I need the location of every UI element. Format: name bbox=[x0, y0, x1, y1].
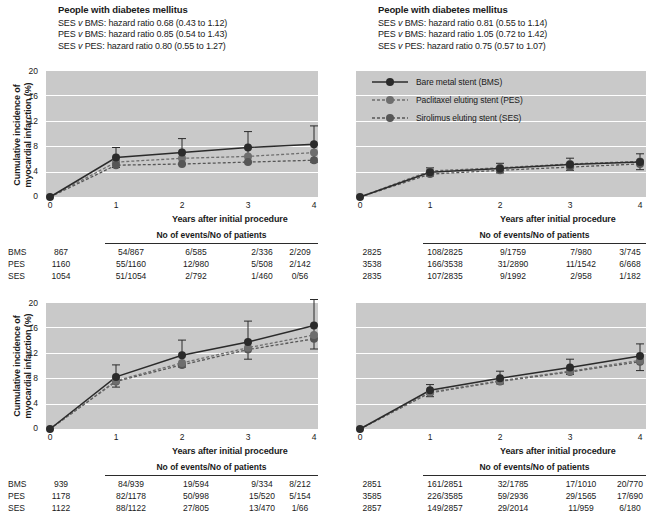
y-tick: 16 bbox=[22, 91, 38, 101]
table-cell: 6/180 bbox=[608, 503, 652, 513]
series-plot bbox=[46, 70, 318, 197]
y-tick: 4 bbox=[22, 398, 38, 408]
row-total: 939 bbox=[40, 479, 82, 489]
x-tick: 4 bbox=[633, 200, 647, 210]
y-tick: 0 bbox=[22, 423, 38, 433]
plot-area bbox=[46, 302, 318, 429]
table-header: No of events/No of patients bbox=[105, 462, 318, 472]
table-header: No of events/No of patients bbox=[423, 462, 646, 472]
table-cell: 108/2825 bbox=[416, 247, 474, 257]
row-total: 1122 bbox=[40, 503, 82, 513]
series-plot bbox=[356, 70, 646, 197]
table-cell: 54/867 bbox=[105, 247, 157, 257]
table-cell: 29/2014 bbox=[486, 503, 540, 513]
table-cell: 20/770 bbox=[608, 479, 652, 489]
y-tick: 8 bbox=[22, 373, 38, 383]
x-tick: 4 bbox=[307, 432, 321, 442]
y-tick: 20 bbox=[22, 298, 38, 308]
table-cell: 6/585 bbox=[170, 247, 222, 257]
row-label: SES bbox=[8, 503, 25, 513]
hazard-ratio-line: PES v BMS: hazard ratio 1.05 (0.72 to 1.… bbox=[378, 29, 547, 40]
row-total: 2857 bbox=[350, 503, 394, 513]
plot-area: Bare metal stent (BMS) Paclitaxel elutin… bbox=[356, 70, 646, 197]
x-tick: 1 bbox=[109, 432, 123, 442]
y-tick: 12 bbox=[22, 348, 38, 358]
row-total: 3585 bbox=[350, 491, 394, 501]
table-cell: 2/209 bbox=[276, 247, 324, 257]
table-cell: 161/2851 bbox=[416, 479, 474, 489]
y-axis-label: Cumulative incidence ofmyocardial infarc… bbox=[12, 65, 34, 205]
panel-bottom-right: 0 1 2 3 4 Years after initial procedure … bbox=[328, 266, 656, 532]
table-cell: 17/1010 bbox=[554, 479, 608, 489]
row-total: 2825 bbox=[350, 247, 394, 257]
row-label: BMS bbox=[8, 247, 26, 257]
hazard-ratio-line: SES v PES: hazard ratio 0.80 (0.55 to 1.… bbox=[58, 41, 227, 52]
table-cell: 1/66 bbox=[276, 503, 324, 513]
x-tick: 2 bbox=[175, 432, 189, 442]
row-total: 2851 bbox=[350, 479, 394, 489]
table-cell: 50/998 bbox=[170, 491, 222, 501]
hazard-ratio-list: SES v BMS: hazard ratio 0.68 (0.43 to 1.… bbox=[58, 18, 227, 52]
table-cell: 29/1565 bbox=[554, 491, 608, 501]
x-tick: 0 bbox=[353, 432, 367, 442]
y-axis-label: Cumulative incidence ofmyocardial infarc… bbox=[12, 296, 34, 436]
panel-title: People with diabetes mellitus bbox=[378, 4, 508, 15]
y-tick: 4 bbox=[22, 166, 38, 176]
plot-area bbox=[46, 70, 318, 197]
x-tick: 0 bbox=[43, 200, 57, 210]
x-tick: 3 bbox=[563, 432, 577, 442]
row-total: 867 bbox=[40, 247, 82, 257]
x-tick: 2 bbox=[175, 200, 189, 210]
x-tick: 4 bbox=[307, 200, 321, 210]
hazard-ratio-list: SES v BMS: hazard ratio 0.81 (0.55 to 1.… bbox=[378, 18, 547, 52]
y-tick: 12 bbox=[22, 116, 38, 126]
table-cell: 19/594 bbox=[170, 479, 222, 489]
table-cell: 149/2857 bbox=[416, 503, 474, 513]
table-header: No of events/No of patients bbox=[105, 230, 318, 240]
table-cell: 84/939 bbox=[105, 479, 157, 489]
table-cell: 11/959 bbox=[554, 503, 608, 513]
x-tick: 0 bbox=[43, 432, 57, 442]
table-cell: 226/3585 bbox=[416, 491, 474, 501]
hazard-ratio-line: PES v BMS: hazard ratio 0.85 (0.54 to 1.… bbox=[58, 29, 227, 40]
x-tick: 1 bbox=[423, 200, 437, 210]
panel-title: People with diabetes mellitus bbox=[58, 4, 188, 15]
row-label: BMS bbox=[8, 479, 26, 489]
table-cell: 59/2936 bbox=[486, 491, 540, 501]
x-tick: 3 bbox=[563, 200, 577, 210]
table-cell: 82/1178 bbox=[105, 491, 157, 501]
x-tick: 3 bbox=[241, 432, 255, 442]
table-cell: 3/745 bbox=[610, 247, 650, 257]
x-tick: 2 bbox=[493, 200, 507, 210]
x-tick: 1 bbox=[423, 432, 437, 442]
table-cell: 8/212 bbox=[276, 479, 324, 489]
x-axis-label: Years after initial procedure bbox=[172, 214, 288, 224]
x-tick: 1 bbox=[109, 200, 123, 210]
hazard-ratio-line: SES v BMS: hazard ratio 0.81 (0.55 to 1.… bbox=[378, 18, 547, 29]
hazard-ratio-line: SES v PES: hazard ratio 0.75 (0.57 to 1.… bbox=[378, 41, 547, 52]
x-axis-label: Years after initial procedure bbox=[500, 446, 616, 456]
table-header: No of events/No of patients bbox=[423, 230, 646, 240]
table-cell: 32/1785 bbox=[486, 479, 540, 489]
panel-bottom-left: Cumulative incidence ofmyocardial infarc… bbox=[0, 266, 328, 532]
table-cell: 17/690 bbox=[608, 491, 652, 501]
y-tick: 8 bbox=[22, 141, 38, 151]
x-tick: 2 bbox=[493, 432, 507, 442]
plot-area bbox=[356, 302, 646, 429]
y-tick: 16 bbox=[22, 323, 38, 333]
row-total: 1178 bbox=[40, 491, 82, 501]
hazard-ratio-line: SES v BMS: hazard ratio 0.68 (0.43 to 1.… bbox=[58, 18, 227, 29]
y-tick: 20 bbox=[22, 66, 38, 76]
table-cell: 5/154 bbox=[276, 491, 324, 501]
x-axis-label: Years after initial procedure bbox=[172, 446, 288, 456]
row-label: PES bbox=[8, 491, 25, 501]
x-axis-label: Years after initial procedure bbox=[500, 214, 616, 224]
y-tick: 0 bbox=[22, 191, 38, 201]
table-cell: 9/1759 bbox=[486, 247, 540, 257]
panel-top-right: People with diabetes mellitus SES v BMS:… bbox=[328, 0, 656, 266]
table-cell: 7/980 bbox=[554, 247, 608, 257]
table-cell: 27/805 bbox=[170, 503, 222, 513]
table-cell: 88/1122 bbox=[105, 503, 157, 513]
x-tick: 3 bbox=[241, 200, 255, 210]
x-tick: 0 bbox=[353, 200, 367, 210]
